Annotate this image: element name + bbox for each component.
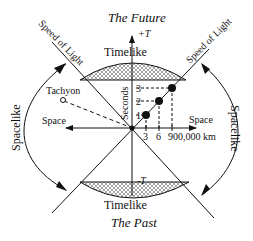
y-tick-3: 3 [136,83,141,94]
seconds-label: Seconds [119,87,130,120]
future-title: The Future [108,10,166,25]
y-tick-1: 1 [136,110,141,121]
point-2 [155,97,163,105]
future-timelike-region [80,63,186,80]
timelike-top-label: Timelike [104,45,147,59]
arrow-icon [201,184,210,196]
spacelike-left-label: Spacelike [9,104,23,151]
x-tick-6: 6 [156,131,161,142]
x-tick-3: 3 [143,131,148,142]
speed-of-light-left-label: Speed of Light [37,18,87,68]
tachyon-label: Tachyon [46,85,80,96]
past-timelike-region [80,182,189,198]
x-tick-900000km: 900,000 km [168,131,216,142]
plus-t-label: +T [138,28,152,39]
arrow-icon [201,63,210,74]
speed-of-light-right-label: Speed of Light [184,15,234,65]
timelike-bottom-label: Timelike [104,198,147,212]
origin-point [130,126,135,131]
y-tick-2: 2 [136,96,141,107]
minus-t-label: -T [137,175,147,186]
point-1 [142,111,150,119]
space-right-label: Space [189,114,213,125]
arrow-icon [56,181,67,191]
space-left-label: Space [42,115,66,126]
point-3 [168,84,176,92]
spacetime-light-cone-diagram: The Future +T Timelike Speed of Light Sp… [0,0,253,241]
past-title: The Past [111,215,157,230]
tachyon-point [61,98,66,103]
spacelike-right-label: Spacelike [228,105,242,152]
spacelike-arc-left [24,64,66,190]
